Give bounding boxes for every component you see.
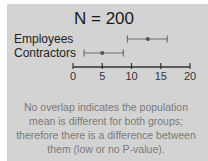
x-axis-tick-label: 20 [184,70,196,82]
chart-caption: No overlap indicates the population mean… [14,100,198,156]
x-axis-tick-label: 10 [125,70,137,82]
x-axis-tick-label: 15 [155,70,167,82]
interval-contractors-mean-marker [100,51,104,55]
interval-employees-mean-marker [146,37,150,41]
x-axis-tick-label: 5 [99,70,105,82]
x-axis-tick-label: 0 [70,70,76,82]
